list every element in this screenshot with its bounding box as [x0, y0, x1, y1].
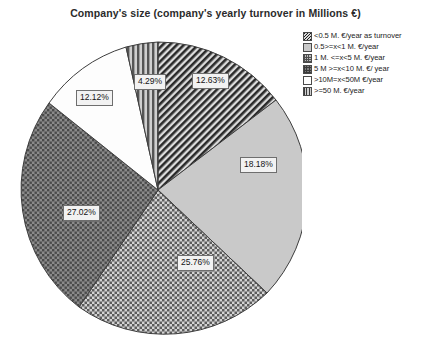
pie-label-gte-50m: 4.29% [134, 74, 166, 90]
legend-item-0-5-to-1m[interactable]: 0.5>=x<1 M. €/year [303, 42, 429, 52]
legend-item-1-to-5m[interactable]: 1 M. <=x<5 M. €/year [303, 53, 429, 63]
legend-item-gte-50m[interactable]: >=50 M. €/year [303, 86, 429, 96]
legend-label: >=50 M. €/year [314, 86, 364, 95]
chart-title: Company's size (company's yearly turnove… [0, 7, 431, 19]
pie-label-1-to-5m: 25.76% [177, 255, 214, 271]
legend-label: 0.5>=x<1 M. €/year [314, 42, 379, 51]
legend-label: <0.5 M. €/year as turnover [314, 31, 402, 40]
legend: <0.5 M. €/year as turnover 0.5>=x<1 M. €… [303, 31, 429, 97]
diagonal-hatch-dark-swatch-icon [303, 32, 312, 41]
pie-chart: 12.63% 18.18% 25.76% 27.02% 12.12% 4.29% [12, 24, 302, 349]
vertical-stripes-swatch-icon [303, 87, 312, 96]
legend-item-lt-0-5m[interactable]: <0.5 M. €/year as turnover [303, 31, 429, 41]
pie-label-10-to-50m: 12.12% [76, 90, 113, 106]
checkerboard-swatch-icon [303, 54, 312, 63]
pie-svg [12, 24, 302, 349]
pie-label-0-5-to-1m: 18.18% [240, 157, 277, 173]
white-swatch-icon [303, 76, 312, 85]
legend-item-5-to-10m[interactable]: 5 M >=x<10 M. €/ year [303, 64, 429, 74]
legend-label: >10M=x<50M €/year [314, 75, 383, 84]
pie-label-5-to-10m: 27.02% [63, 205, 100, 221]
dotted-dark-gray-swatch-icon [303, 65, 312, 74]
legend-label: 5 M >=x<10 M. €/ year [314, 64, 389, 73]
light-gray-solid-swatch-icon [303, 43, 312, 52]
legend-label: 1 M. <=x<5 M. €/year [314, 53, 385, 62]
legend-item-10-to-50m[interactable]: >10M=x<50M €/year [303, 75, 429, 85]
pie-label-lt-0-5m: 12.63% [192, 73, 229, 89]
